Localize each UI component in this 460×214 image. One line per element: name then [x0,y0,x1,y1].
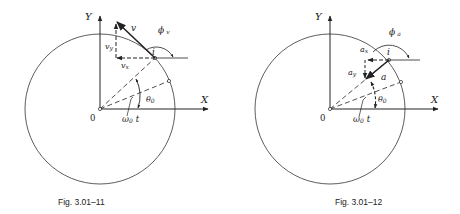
theta0-point [167,79,170,82]
phi-v-arc [146,47,173,57]
theta0-point [399,80,402,83]
x-axis-label: X [200,94,209,105]
figure-acceleration: Y X 0 i a ax ay ϕa θ0 ω0t Fig. 3.01–12 [255,11,439,207]
diagram-canvas: Y X 0 i v vx vy ϕv θ0 ω0t Fig. 3.01–11 Y… [0,0,460,214]
theta0-label: θ0 [146,95,155,104]
radius-theta0 [330,82,401,109]
origin-label: 0 [90,113,95,123]
figure-velocity: Y X 0 i v vx vy ϕv θ0 ω0t Fig. 3.01–11 [25,11,209,207]
origin-label: 0 [320,113,325,123]
figure-caption-2: Fig. 3.01–12 [335,197,383,207]
phi-v-label: ϕv [158,25,170,35]
ax-label: ax [360,45,369,54]
vy-label: vy [105,42,114,52]
omega-t-pointer [359,97,366,117]
y-axis-label: Y [85,11,93,22]
point-i-label: i [152,47,155,57]
x-axis-label: X [430,94,439,105]
omega-t-label: ω0t [353,114,371,124]
origin-point [98,107,101,110]
phi-a-label: ϕa [389,27,401,37]
acceleration-label: a [381,72,386,82]
theta0-label: θ0 [378,95,387,104]
point-i-label: i [387,47,390,57]
figure-caption-1: Fig. 3.01–11 [58,197,105,207]
theta0-arc [371,82,376,108]
omega-t-label: ω0t [122,114,140,124]
y-axis-label: Y [315,11,323,22]
ay-label: ay [348,68,357,78]
vx-label: vx [121,61,130,70]
origin-point [328,107,331,110]
radius-theta0 [100,81,169,109]
velocity-label: v [131,23,136,33]
